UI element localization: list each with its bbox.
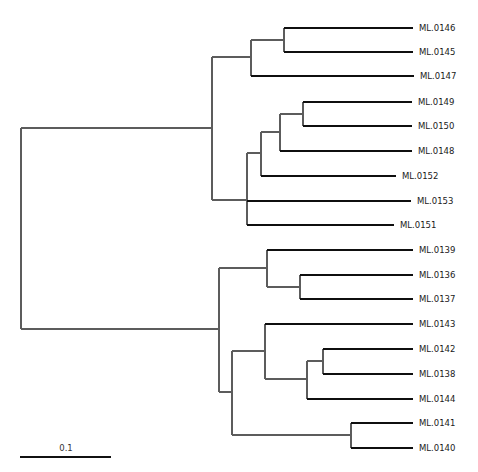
tip-label: ML.0142 bbox=[419, 344, 455, 354]
tip-label: ML.0150 bbox=[418, 121, 454, 131]
tip-label: ML.0136 bbox=[419, 270, 455, 280]
tip-label: ML.0153 bbox=[417, 196, 453, 206]
tip-label: ML.0147 bbox=[420, 71, 456, 81]
leaf-branches bbox=[247, 28, 414, 448]
tip-label: ML.0139 bbox=[419, 245, 455, 255]
tip-label: ML.0141 bbox=[419, 418, 455, 428]
tip-label: ML.0146 bbox=[419, 23, 455, 33]
tip-label: ML.0138 bbox=[419, 369, 455, 379]
phylogenetic-tree: ML.0146ML.0145ML.0147ML.0149ML.0150ML.01… bbox=[0, 0, 478, 472]
internal-branches bbox=[21, 28, 351, 448]
scale-bar: 0.1 bbox=[20, 443, 111, 457]
tip-label: ML.0148 bbox=[418, 146, 454, 156]
tip-label: ML.0140 bbox=[419, 443, 455, 453]
tip-labels: ML.0146ML.0145ML.0147ML.0149ML.0150ML.01… bbox=[400, 23, 456, 453]
tip-label: ML.0145 bbox=[419, 47, 455, 57]
tip-label: ML.0151 bbox=[400, 220, 436, 230]
tip-label: ML.0137 bbox=[419, 294, 455, 304]
tip-label: ML.0152 bbox=[402, 171, 438, 181]
tip-label: ML.0143 bbox=[419, 319, 455, 329]
tip-label: ML.0149 bbox=[418, 97, 454, 107]
tip-label: ML.0144 bbox=[419, 394, 455, 404]
scale-bar-label: 0.1 bbox=[59, 443, 73, 453]
